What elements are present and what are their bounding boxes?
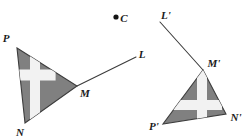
endpoint-label-l-prime: L' — [160, 9, 171, 21]
vertex-label-n: N — [15, 126, 25, 138]
endpoint-label-l: L — [138, 48, 146, 60]
triangle-pprime-mprime-nprime — [163, 70, 226, 124]
triangle-pmn — [17, 48, 77, 123]
center-point-dot-icon — [113, 14, 118, 19]
vertex-label-n-prime: N' — [230, 111, 242, 123]
cross-horizontal-band-image — [167, 100, 222, 110]
preimage-group: P M N L — [3, 32, 146, 138]
rotation-figure: P M N L C M' N' P' — [0, 0, 251, 138]
cross-vertical-band-image — [197, 70, 207, 124]
ray-mprime-lprime — [160, 22, 203, 70]
vertex-label-p-prime: P' — [149, 120, 159, 132]
center-point-label-c: C — [120, 12, 128, 24]
ray-ml — [77, 57, 136, 86]
vertex-label-m-prime: M' — [207, 57, 221, 69]
vertex-label-p: P — [3, 32, 10, 44]
vertex-label-m: M — [79, 87, 91, 99]
image-group: M' N' P' L' — [149, 9, 241, 132]
figure-canvas: P M N L C M' N' P' — [0, 0, 251, 138]
center-of-rotation-group: C — [113, 12, 128, 24]
